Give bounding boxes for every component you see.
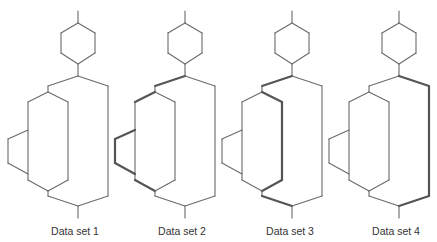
edge-tri-top [222, 130, 242, 139]
edge-inner-top-right [48, 92, 68, 102]
edge-hex-tr [185, 23, 202, 33]
edge-hex-bl [61, 53, 78, 64]
edge-hex-tl [275, 23, 292, 33]
edge-tri-top [329, 130, 349, 139]
edge-join-right [185, 196, 215, 206]
label-data-set-2: Data set 2 [132, 225, 232, 237]
edge-hex-tl [168, 23, 185, 33]
edge-hex-br [399, 53, 416, 64]
edge-hex-br [185, 53, 202, 64]
edge-inner-bottom-left [28, 180, 48, 191]
edge-branch-right [78, 76, 108, 86]
label-data-set-4: Data set 4 [346, 225, 437, 237]
tree-diagrams [0, 0, 437, 242]
edge-inner-bottom-right [48, 180, 68, 191]
edge-inner-bottom-left [135, 180, 155, 191]
edge-tri-bottom [8, 163, 28, 174]
edge-inner-top-left [135, 92, 155, 102]
edge-hex-tr [399, 23, 416, 33]
edge-hex-br [78, 53, 95, 64]
edge-inner-top-right [369, 92, 389, 102]
tree-diagram-1 [8, 11, 108, 218]
edge-inner-top-right [262, 92, 282, 102]
edge-inner-bottom-left [242, 180, 262, 191]
edge-hex-tr [292, 23, 309, 33]
edge-join-left [262, 196, 292, 206]
edge-branch-left [262, 76, 292, 86]
edge-hex-bl [275, 53, 292, 64]
edge-tri-bottom [115, 163, 135, 174]
edge-branch-left [48, 76, 78, 86]
edge-join-left [48, 196, 78, 206]
edge-join-left [369, 196, 399, 206]
edge-join-right [399, 196, 429, 206]
edge-join-left [155, 196, 185, 206]
edge-inner-top-right [155, 92, 175, 102]
edge-hex-tl [61, 23, 78, 33]
edge-inner-bottom-right [262, 180, 282, 191]
edge-inner-bottom-right [155, 180, 175, 191]
edge-branch-left [369, 76, 399, 86]
label-data-set-1: Data set 1 [25, 225, 125, 237]
edge-tri-bottom [329, 163, 349, 174]
label-data-set-3: Data set 3 [240, 225, 340, 237]
edge-hex-tl [382, 23, 399, 33]
edge-branch-left [155, 76, 185, 86]
edge-inner-top-left [28, 92, 48, 102]
edge-inner-bottom-left [349, 180, 369, 191]
edge-tri-top [115, 130, 135, 139]
edge-inner-top-left [242, 92, 262, 102]
edge-join-right [292, 196, 322, 206]
tree-diagram-4 [329, 11, 429, 218]
tree-diagram-3 [222, 11, 322, 218]
edge-branch-right [185, 76, 215, 86]
edge-hex-tr [78, 23, 95, 33]
edge-inner-top-left [349, 92, 369, 102]
edge-branch-right [292, 76, 322, 86]
edge-inner-bottom-right [369, 180, 389, 191]
edge-tri-top [8, 130, 28, 139]
edge-hex-br [292, 53, 309, 64]
edge-tri-bottom [222, 163, 242, 174]
tree-diagram-2 [115, 11, 215, 218]
edge-hex-bl [168, 53, 185, 64]
edge-branch-right [399, 76, 429, 86]
edge-hex-bl [382, 53, 399, 64]
edge-join-right [78, 196, 108, 206]
